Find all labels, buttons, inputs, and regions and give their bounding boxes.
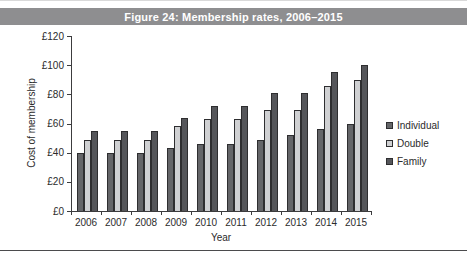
x-tick-label: 2014: [311, 217, 341, 228]
x-tick-label: 2012: [251, 217, 281, 228]
legend-item-family: Family: [386, 152, 439, 170]
bar-family-2012: [271, 93, 278, 211]
x-tick-label: 2010: [191, 217, 221, 228]
x-tick-mark: [371, 212, 372, 215]
bar-double-2012: [264, 110, 271, 211]
bar-family-2014: [331, 72, 338, 211]
x-tick-mark: [281, 212, 282, 215]
x-tick-label: 2006: [71, 217, 101, 228]
legend-item-double: Double: [386, 134, 439, 152]
y-tick-mark: [67, 124, 71, 125]
x-tick-label: 2011: [221, 217, 251, 228]
legend-label: Double: [397, 138, 429, 149]
y-tick-mark: [67, 36, 71, 37]
membership-rates-chart: Cost of membership Year IndividualDouble…: [0, 0, 467, 260]
bar-double-2014: [324, 86, 331, 211]
bar-family-2006: [91, 131, 98, 211]
bar-family-2015: [361, 65, 368, 211]
bar-double-2010: [204, 119, 211, 211]
bar-double-2008: [144, 140, 151, 211]
bar-double-2009: [174, 126, 181, 211]
x-tick-label: 2013: [281, 217, 311, 228]
x-tick-mark: [101, 212, 102, 215]
bar-individual-2009: [167, 148, 174, 211]
legend-swatch-icon: [386, 122, 393, 129]
x-tick-mark: [341, 212, 342, 215]
bar-double-2013: [294, 110, 301, 211]
y-tick-label: £80: [18, 89, 64, 100]
x-tick-mark: [161, 212, 162, 215]
bar-individual-2014: [317, 129, 324, 211]
bar-individual-2011: [227, 144, 234, 211]
bar-family-2009: [181, 118, 188, 211]
plot-area: [71, 36, 372, 212]
bar-individual-2007: [107, 153, 114, 211]
y-tick-mark: [67, 182, 71, 183]
legend-swatch-icon: [386, 140, 393, 147]
y-tick-mark: [67, 94, 71, 95]
x-tick-label: 2015: [341, 217, 371, 228]
bar-family-2008: [151, 131, 158, 211]
y-tick-label: £20: [18, 176, 64, 187]
legend-label: Individual: [397, 120, 439, 131]
page-bottom-divider: [0, 250, 467, 251]
x-tick-mark: [251, 212, 252, 215]
y-tick-mark: [67, 153, 71, 154]
x-axis-title: Year: [71, 232, 371, 243]
y-tick-label: £120: [18, 31, 64, 42]
bar-family-2010: [211, 106, 218, 211]
bar-double-2007: [114, 140, 121, 211]
x-tick-mark: [71, 212, 72, 215]
x-tick-mark: [131, 212, 132, 215]
y-tick-label: £100: [18, 60, 64, 71]
bar-individual-2008: [137, 153, 144, 211]
bar-double-2011: [234, 119, 241, 211]
bar-individual-2012: [257, 140, 264, 211]
bar-double-2006: [84, 140, 91, 211]
bar-family-2013: [301, 93, 308, 211]
y-tick-label: £0: [18, 206, 64, 217]
y-tick-label: £40: [18, 147, 64, 158]
y-tick-mark: [67, 65, 71, 66]
x-tick-label: 2007: [101, 217, 131, 228]
x-tick-label: 2009: [161, 217, 191, 228]
bar-individual-2006: [77, 153, 84, 211]
bar-individual-2015: [347, 124, 354, 212]
bar-individual-2013: [287, 135, 294, 211]
x-tick-label: 2008: [131, 217, 161, 228]
legend-item-individual: Individual: [386, 116, 439, 134]
bar-family-2007: [121, 131, 128, 211]
legend: IndividualDoubleFamily: [386, 116, 439, 170]
x-tick-mark: [221, 212, 222, 215]
legend-label: Family: [397, 156, 426, 167]
bar-double-2015: [354, 80, 361, 211]
x-tick-mark: [311, 212, 312, 215]
x-tick-mark: [191, 212, 192, 215]
legend-swatch-icon: [386, 158, 393, 165]
bar-individual-2010: [197, 144, 204, 211]
y-tick-label: £60: [18, 118, 64, 129]
bar-family-2011: [241, 106, 248, 211]
